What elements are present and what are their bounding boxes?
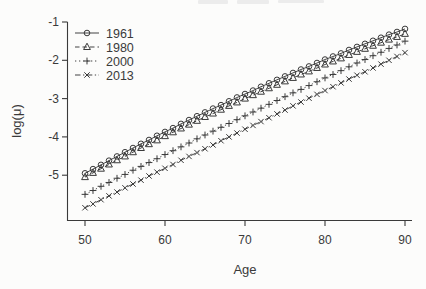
series-marker-2000 bbox=[122, 171, 129, 178]
x-tick-label: 50 bbox=[78, 233, 92, 247]
x-tick-label: 60 bbox=[158, 233, 172, 247]
legend-label-2000: 2000 bbox=[106, 55, 134, 69]
series-marker-2013 bbox=[130, 181, 135, 186]
series-marker-2000 bbox=[346, 63, 353, 70]
series-marker-2000 bbox=[202, 132, 209, 139]
series-marker-2000 bbox=[242, 112, 249, 119]
series-marker-2000 bbox=[170, 147, 177, 154]
series-marker-2000 bbox=[274, 97, 281, 104]
series-marker-2013 bbox=[234, 130, 239, 135]
series-marker-2013 bbox=[330, 84, 335, 89]
series-marker-2013 bbox=[250, 123, 255, 128]
series-marker-2000 bbox=[362, 56, 369, 63]
series-marker-2013 bbox=[170, 162, 175, 167]
series-marker-2013 bbox=[338, 80, 343, 85]
series-marker-2013 bbox=[306, 96, 311, 101]
series-marker-2000 bbox=[330, 71, 337, 78]
series-marker-2013 bbox=[266, 115, 271, 120]
series-marker-2013 bbox=[154, 169, 159, 174]
series-marker-2013 bbox=[394, 54, 399, 59]
series-marker-2013 bbox=[314, 92, 319, 97]
legend-label-1961: 1961 bbox=[106, 27, 134, 41]
x-axis-title: Age bbox=[233, 262, 256, 277]
series-marker-2013 bbox=[258, 119, 263, 124]
series-marker-2013 bbox=[362, 69, 367, 74]
series-marker-2000 bbox=[218, 124, 225, 131]
series-marker-2000 bbox=[394, 42, 401, 49]
y-axis-title: log(μ) bbox=[9, 104, 24, 138]
series-marker-2013 bbox=[218, 138, 223, 143]
series-marker-2000 bbox=[266, 101, 273, 108]
series-marker-2000 bbox=[106, 179, 113, 186]
series-marker-2013 bbox=[402, 50, 407, 55]
series-marker-2013 bbox=[378, 61, 383, 66]
series-marker-2013 bbox=[290, 103, 295, 108]
x-tick-label: 70 bbox=[238, 233, 252, 247]
series-marker-2013 bbox=[138, 177, 143, 182]
series-marker-2000 bbox=[354, 60, 361, 67]
series-marker-2013 bbox=[370, 65, 375, 70]
series-marker-2013 bbox=[186, 154, 191, 159]
series-marker-2000 bbox=[306, 82, 313, 89]
series-marker-2013 bbox=[242, 127, 247, 132]
series-marker-2000 bbox=[338, 67, 345, 74]
series-marker-2000 bbox=[98, 183, 105, 190]
series-marker-2013 bbox=[298, 99, 303, 104]
series-marker-2000 bbox=[130, 167, 137, 174]
series-marker-2000 bbox=[258, 105, 265, 112]
series-marker-2013 bbox=[178, 158, 183, 163]
series-marker-2000 bbox=[210, 128, 217, 135]
series-marker-2000 bbox=[282, 93, 289, 100]
series-marker-2000 bbox=[146, 159, 153, 166]
series-marker-2000 bbox=[226, 120, 233, 127]
series-marker-2000 bbox=[114, 175, 121, 182]
series-marker-2013 bbox=[346, 76, 351, 81]
series-marker-2013 bbox=[274, 111, 279, 116]
series-marker-2013 bbox=[114, 189, 119, 194]
series-marker-2013 bbox=[82, 205, 87, 210]
series-marker-2000 bbox=[250, 109, 257, 116]
series-marker-2013 bbox=[210, 142, 215, 147]
series-marker-2013 bbox=[106, 193, 111, 198]
series-marker-2000 bbox=[162, 151, 169, 158]
series-marker-2000 bbox=[90, 187, 97, 194]
series-marker-2000 bbox=[298, 86, 305, 93]
series-marker-2000 bbox=[290, 89, 297, 96]
series-marker-2000 bbox=[370, 52, 377, 59]
series-marker-2000 bbox=[314, 78, 321, 85]
series-marker-2000 bbox=[194, 135, 201, 142]
series-marker-2000 bbox=[234, 116, 241, 123]
series-marker-2000 bbox=[186, 140, 193, 147]
series-marker-2000 bbox=[82, 191, 89, 198]
series-marker-2013 bbox=[354, 73, 359, 78]
series-marker-2013 bbox=[194, 150, 199, 155]
series-marker-2013 bbox=[226, 134, 231, 139]
series-marker-2013 bbox=[90, 201, 95, 206]
series-marker-2013 bbox=[322, 88, 327, 93]
legend-key-marker-2000 bbox=[84, 58, 91, 65]
x-tick-label: 90 bbox=[398, 233, 412, 247]
series-marker-2013 bbox=[98, 197, 103, 202]
x-tick-label: 80 bbox=[318, 233, 332, 247]
series-marker-2013 bbox=[282, 107, 287, 112]
y-tick-label: -3 bbox=[48, 92, 59, 106]
series-marker-2000 bbox=[178, 143, 185, 150]
y-tick-label: -1 bbox=[48, 15, 59, 29]
chart-canvas: -1-2-3-4-550607080901961198020002013 bbox=[0, 0, 426, 289]
series-marker-2013 bbox=[386, 58, 391, 63]
series-marker-2013 bbox=[162, 166, 167, 171]
series-marker-2000 bbox=[138, 163, 145, 170]
series-marker-2000 bbox=[402, 38, 409, 45]
series-marker-2013 bbox=[202, 146, 207, 151]
series-marker-2000 bbox=[386, 45, 393, 52]
y-tick-label: -4 bbox=[48, 130, 59, 144]
series-marker-2013 bbox=[122, 185, 127, 190]
series-marker-2000 bbox=[154, 155, 161, 162]
series-marker-2000 bbox=[322, 75, 329, 82]
legend-label-1980: 1980 bbox=[106, 41, 134, 55]
legend-key-marker-1980 bbox=[84, 43, 91, 49]
legend-label-2013: 2013 bbox=[106, 69, 134, 83]
y-tick-label: -5 bbox=[48, 168, 59, 182]
series-marker-2000 bbox=[378, 49, 385, 56]
y-tick-label: -2 bbox=[48, 53, 59, 67]
